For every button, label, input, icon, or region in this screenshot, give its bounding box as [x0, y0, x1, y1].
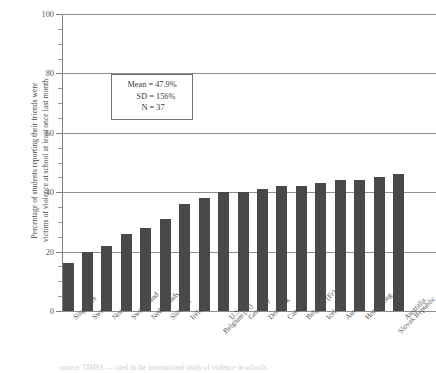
bar — [63, 263, 74, 311]
bar — [218, 192, 229, 311]
y-tick-label-20: 20 — [46, 247, 54, 256]
y-tick-minor-45 — [58, 177, 62, 178]
bar — [199, 198, 210, 311]
bar — [238, 192, 249, 311]
bar — [354, 180, 365, 311]
y-tick-major-40 — [56, 192, 62, 193]
y-tick-minor-15 — [58, 266, 62, 267]
y-tick-minor-25 — [58, 237, 62, 238]
y-tick-label-60: 60 — [46, 128, 54, 137]
y-tick-minor-95 — [58, 29, 62, 30]
y-tick-label-0: 0 — [50, 307, 54, 316]
y-axis-title-line-1: Percentage of students reporting their f… — [30, 8, 41, 313]
y-tick-label-40: 40 — [46, 188, 54, 197]
bar — [140, 228, 151, 311]
annotation-sd: SD = 156% — [119, 91, 185, 103]
bar — [257, 189, 268, 311]
gridline-60 — [62, 133, 436, 134]
y-tick-minor-5 — [58, 296, 62, 297]
bar — [82, 252, 93, 311]
figure-caption: source: TIMSS — cited in the internation… — [60, 364, 432, 373]
bar — [335, 180, 346, 311]
y-tick-minor-75 — [58, 88, 62, 89]
bar — [160, 219, 171, 311]
y-tick-major-0 — [56, 311, 62, 312]
annotation-n: N = 37 — [119, 102, 185, 114]
y-tick-label-100: 100 — [41, 10, 54, 19]
y-axis-title: Percentage of students reporting their f… — [0, 0, 34, 315]
gridline-100 — [62, 14, 436, 15]
y-axis-title-line-2: victims of violence at school at least o… — [41, 8, 52, 313]
y-tick-minor-10 — [58, 281, 62, 282]
bar — [276, 186, 287, 311]
y-tick-label-80: 80 — [46, 69, 54, 78]
bar — [121, 234, 132, 311]
bar — [374, 177, 385, 311]
y-tick-major-100 — [56, 14, 62, 15]
y-tick-minor-90 — [58, 44, 62, 45]
bar — [101, 246, 112, 311]
y-tick-minor-30 — [58, 222, 62, 223]
y-tick-major-80 — [56, 73, 62, 74]
annotation-mean: Mean = 47.9% — [119, 79, 185, 91]
statistics-annotation-box: Mean = 47.9% SD = 156% N = 37 — [111, 74, 193, 120]
y-tick-minor-65 — [58, 118, 62, 119]
x-axis-baseline — [62, 311, 436, 312]
y-tick-major-60 — [56, 133, 62, 134]
y-axis-title-text: Percentage of students reporting their f… — [30, 8, 51, 313]
y-tick-major-20 — [56, 252, 62, 253]
bar — [179, 204, 190, 311]
plot-area: 020406080100 — [62, 14, 436, 311]
bar — [315, 183, 326, 311]
bar — [296, 186, 307, 311]
bar — [393, 174, 404, 311]
y-tick-minor-50 — [58, 163, 62, 164]
y-tick-minor-85 — [58, 59, 62, 60]
y-tick-minor-35 — [58, 207, 62, 208]
y-tick-minor-70 — [58, 103, 62, 104]
y-tick-minor-55 — [58, 148, 62, 149]
